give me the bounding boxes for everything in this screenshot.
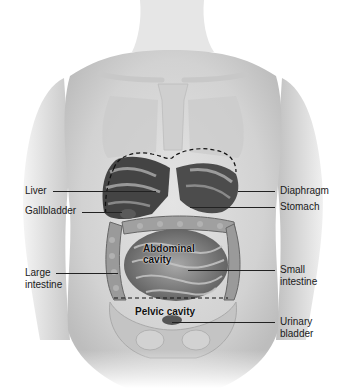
label-small-intestine-1: Small [280,264,305,276]
label-diaphragm: Diaphragm [280,185,329,197]
label-urinary-bladder-1: Urinary [280,316,312,328]
label-abdominal-cavity-2: cavity [143,254,171,265]
label-small-intestine-2: intestine [280,276,317,288]
leader-urinary-bladder [172,322,275,323]
leader-diaphragm [238,191,275,192]
left-lung [102,96,158,158]
neck [132,0,214,52]
label-pelvic-cavity: Pelvic cavity [135,306,195,317]
leader-small-intestine [188,270,275,271]
label-large-intestine-2: intestine [25,279,62,291]
leader-stomach [190,207,275,208]
label-abdominal-cavity-1: Abdominal [143,243,195,254]
label-large-intestine-1: Large [25,267,51,279]
anatomy-diagram: Liver Gallbladder Large intestine Diaphr… [0,0,346,388]
leader-liver [53,191,156,192]
label-gallbladder: Gallbladder [25,205,76,217]
label-liver: Liver [25,185,47,197]
leader-gallbladder [82,212,122,213]
label-stomach: Stomach [280,201,319,213]
gallbladder [120,209,136,219]
leader-large-intestine [56,273,118,274]
label-urinary-bladder-2: bladder [280,328,313,340]
